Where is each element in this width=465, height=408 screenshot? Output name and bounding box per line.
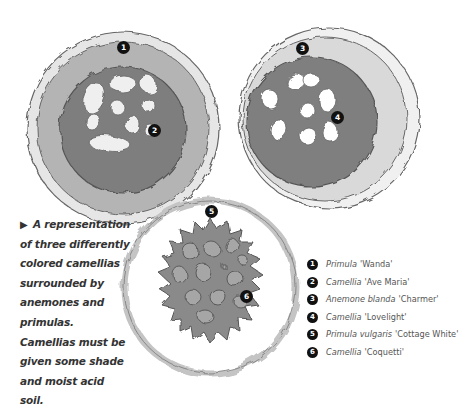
legend-number-icon: 5: [307, 329, 318, 340]
legend-cultivar: 'Cottage White': [395, 329, 458, 339]
planting-group-1: [27, 32, 219, 224]
marker-4: 4: [331, 111, 344, 124]
legend-item-4: 4 Camellia 'Lovelight': [307, 310, 407, 324]
legend-number-icon: 2: [307, 277, 318, 288]
legend-number-icon: 3: [307, 294, 318, 305]
legend-number-icon: 4: [307, 312, 318, 323]
legend-cultivar: 'Ave Maria': [365, 277, 410, 287]
caption-text: A representation of three differently co…: [20, 218, 130, 406]
marker-2: 2: [148, 124, 161, 137]
planting-group-2: [239, 28, 419, 208]
legend-genus: Primula: [326, 259, 357, 269]
legend-genus: Camellia: [326, 347, 362, 357]
caption: ▶ A representation of three differently …: [20, 215, 130, 408]
legend-genus: Anemone blanda: [326, 294, 396, 304]
legend-number-icon: 1: [307, 259, 318, 270]
legend-item-1: 1 Primula 'Wanda': [307, 257, 393, 271]
marker-5: 5: [205, 205, 218, 218]
legend-item-3: 3 Anemone blanda 'Charmer': [307, 292, 439, 306]
legend-cultivar: 'Coquetti': [365, 347, 404, 357]
marker-6: 6: [240, 290, 253, 303]
legend-genus: Camellia: [326, 277, 362, 287]
legend-cultivar: 'Wanda': [360, 259, 393, 269]
legend-item-6: 6 Camellia 'Coquetti': [307, 345, 404, 359]
legend-genus: Camellia: [326, 312, 362, 322]
marker-3: 3: [296, 42, 309, 55]
legend-genus: Primula vulgaris: [326, 329, 392, 339]
legend-item-2: 2 Camellia 'Ave Maria': [307, 275, 409, 289]
planting-group-3: [124, 201, 296, 373]
legend-cultivar: 'Lovelight': [365, 312, 407, 322]
marker-1: 1: [117, 41, 130, 54]
legend-cultivar: 'Charmer': [399, 294, 439, 304]
legend-item-5: 5 Primula vulgaris 'Cottage White': [307, 327, 458, 341]
legend-number-icon: 6: [307, 347, 318, 358]
arrow-right-icon: ▶: [20, 219, 28, 230]
